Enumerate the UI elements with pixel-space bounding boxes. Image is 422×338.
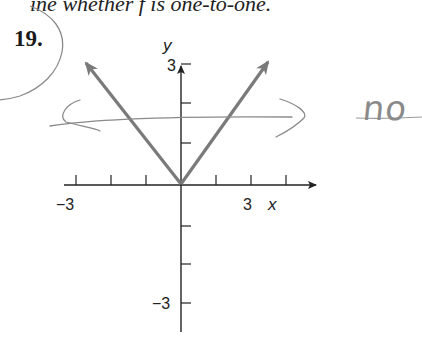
pencil-circle-annotation — [0, 6, 63, 100]
pencil-horizontal-line-sketch — [50, 99, 305, 137]
graph-figure: −3 3 x 3 y −3 — [0, 0, 422, 338]
graph-right-branch — [181, 62, 268, 184]
y-tick-label-3: 3 — [167, 57, 176, 74]
handwritten-answer: no — [361, 88, 410, 128]
y-tick-label-neg3: −3 — [152, 295, 170, 312]
y-axis-label: y — [162, 36, 173, 55]
x-tick-label-neg3: −3 — [56, 196, 74, 213]
graph-left-branch — [86, 63, 181, 184]
x-axis-label: x — [267, 195, 277, 214]
x-tick-label-3: 3 — [243, 196, 252, 213]
